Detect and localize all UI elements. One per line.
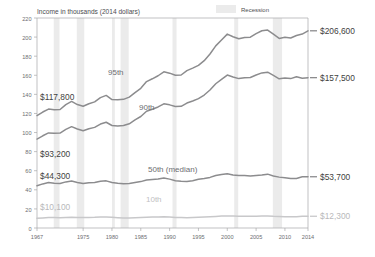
y-tick-label-220: 220 [22, 16, 31, 22]
start-value-label-3: $10,100 [40, 202, 71, 212]
y-tick-label-160: 160 [22, 73, 31, 79]
recession-band-0 [54, 18, 60, 228]
start-value-label-0: $117,800 [40, 92, 75, 102]
x-tick-label-2010: 2010 [279, 234, 291, 240]
x-tick-label-2005: 2005 [250, 234, 262, 240]
y-tick-label-140: 140 [22, 92, 31, 98]
end-value-label-2: $53,700 [320, 172, 351, 182]
x-tick-label-1967: 1967 [31, 234, 43, 240]
recession-legend-swatch [216, 5, 236, 13]
y-tick-label-120: 120 [22, 111, 31, 117]
end-value-label-3: $12,300 [320, 211, 351, 221]
y-tick-label-200: 200 [22, 35, 31, 41]
series-label-0: 95th [108, 68, 124, 77]
recession-band-2 [112, 18, 115, 228]
y-tick-label-100: 100 [22, 130, 31, 136]
series-label-3: 10th [146, 195, 162, 204]
start-value-label-1: $93,200 [40, 149, 71, 159]
chart-root: 020406080100120140160180200220 196719751… [0, 0, 375, 257]
x-tick-label-1980: 1980 [106, 234, 118, 240]
y-tick-label-180: 180 [22, 54, 31, 60]
recession-band-1 [77, 18, 84, 228]
y-tick-label-60: 60 [25, 168, 31, 174]
y-tick-label-40: 40 [25, 187, 31, 193]
end-value-label-1: $157,500 [320, 73, 355, 83]
x-tick-label-2000: 2000 [221, 234, 233, 240]
start-value-label-2: $44,300 [40, 171, 71, 181]
x-tick-label-1975: 1975 [77, 234, 89, 240]
x-tick-label-1995: 1995 [192, 234, 204, 240]
x-tick-label-1990: 1990 [163, 234, 175, 240]
y-tick-label-80: 80 [25, 149, 31, 155]
series-label-2: 50th (median) [148, 165, 198, 174]
y-tick-label-0: 0 [28, 226, 31, 232]
recession-band-3 [121, 18, 129, 228]
y-tick-label-20: 20 [25, 207, 31, 213]
recession-band-5 [234, 18, 238, 228]
recession-band-6 [273, 18, 282, 228]
y-axis-title: Income in thousands (2014 dollars) [37, 8, 140, 16]
x-tick-label-1985: 1985 [135, 234, 147, 240]
series-label-1: 90th [139, 103, 155, 112]
recession-legend-label: Recession [241, 7, 269, 13]
x-tick-label-2014: 2014 [302, 234, 314, 240]
income-percentile-line-chart: 020406080100120140160180200220 196719751… [0, 0, 375, 257]
end-value-label-0: $206,600 [320, 26, 355, 36]
recession-band-4 [173, 18, 177, 228]
